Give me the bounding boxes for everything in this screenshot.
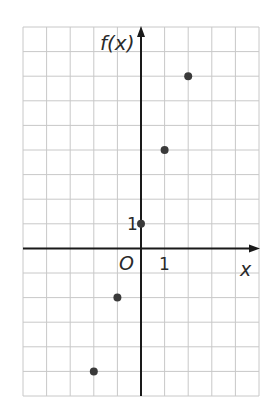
origin-label: O xyxy=(119,252,134,274)
coordinate-plane: f(x) x O 1 1 xyxy=(0,0,269,417)
axis-labels: f(x) x O 1 1 xyxy=(100,31,252,280)
data-point xyxy=(113,294,121,302)
data-point xyxy=(90,367,98,375)
x-axis-arrow-icon xyxy=(249,244,260,252)
x-tick-label-1: 1 xyxy=(159,254,170,274)
axes xyxy=(23,26,260,396)
x-axis-label: x xyxy=(239,258,252,280)
data-point xyxy=(161,146,169,154)
y-axis-arrow-icon xyxy=(137,26,145,37)
data-point xyxy=(184,72,192,80)
data-point xyxy=(137,220,145,228)
y-axis-label: f(x) xyxy=(100,31,134,55)
y-tick-label-1: 1 xyxy=(127,214,138,234)
